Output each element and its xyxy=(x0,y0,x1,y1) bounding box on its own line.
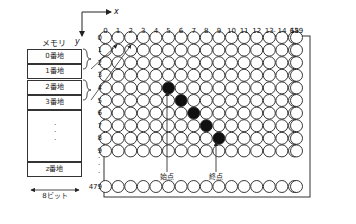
pixel-off xyxy=(263,44,275,56)
grid-row-label: 7 xyxy=(90,122,102,129)
pixel-off xyxy=(276,95,288,107)
pixel-off xyxy=(175,57,187,69)
pixel-off xyxy=(125,69,137,81)
pixel-off xyxy=(263,69,275,81)
pixel-off xyxy=(125,181,137,193)
pixel-off xyxy=(238,120,250,132)
pixel-off xyxy=(200,82,212,94)
pixel-off xyxy=(238,132,250,144)
pixel-off xyxy=(150,69,162,81)
memory-cell-0-label: 0番地 xyxy=(45,53,63,60)
pixel-off xyxy=(137,107,149,119)
pixel-off xyxy=(150,107,162,119)
pixel-off xyxy=(163,120,175,132)
grid-row-label-last: 479 xyxy=(81,183,102,190)
pixel-off xyxy=(125,57,137,69)
diagram-canvas: x y メモリ 0番地 1番地 2番地 3番地 z番地 ··· 8ビット 012… xyxy=(0,0,356,224)
pixel-off xyxy=(150,132,162,144)
grid-column-label: 8 xyxy=(204,28,208,35)
pixel-off xyxy=(200,107,212,119)
pixel-off xyxy=(112,145,124,157)
grid-column-label: 10 xyxy=(227,28,236,35)
pixel-off xyxy=(200,44,212,56)
grid-column-label-last: 639 xyxy=(290,28,303,35)
grid-row-label: 8 xyxy=(90,135,102,142)
pixel-off xyxy=(226,95,238,107)
pixel-off xyxy=(188,132,200,144)
grid-column-label: 11 xyxy=(240,28,249,35)
grid-row-label: 5 xyxy=(90,97,102,104)
grid-row-label: 6 xyxy=(90,110,102,117)
pixel-off xyxy=(226,181,238,193)
pixel-off xyxy=(112,181,124,193)
pixel-off xyxy=(226,120,238,132)
pixel-off xyxy=(226,69,238,81)
memory-cell-2[interactable]: 2番地 xyxy=(27,80,82,95)
pixel-off xyxy=(137,181,149,193)
pixel-off xyxy=(251,107,263,119)
pixel-off xyxy=(200,57,212,69)
pixel-off xyxy=(291,120,303,132)
memory-title: メモリ xyxy=(42,40,66,48)
pixel-off xyxy=(137,120,149,132)
pixel-off xyxy=(276,145,288,157)
pixel-off xyxy=(251,132,263,144)
memory-vertical-ellipsis: ··· xyxy=(54,122,56,144)
pixel-off xyxy=(150,57,162,69)
pixel-off xyxy=(163,69,175,81)
pixel-off xyxy=(251,82,263,94)
y-axis-label: y xyxy=(75,38,80,46)
grid-column-label: 14 xyxy=(277,28,286,35)
pixel-off xyxy=(291,57,303,69)
pixel-on xyxy=(175,95,187,107)
memory-cell-3[interactable]: 3番地 xyxy=(27,95,82,110)
pixel-off xyxy=(112,44,124,56)
pixel-off xyxy=(163,181,175,193)
pixel-off xyxy=(112,107,124,119)
pixel-off xyxy=(213,107,225,119)
memory-cell-z[interactable]: z番地 xyxy=(27,162,82,177)
pixel-off xyxy=(150,95,162,107)
pixel-off xyxy=(150,44,162,56)
pixel-off xyxy=(200,69,212,81)
pixel-off xyxy=(112,95,124,107)
pixel-off xyxy=(137,95,149,107)
pixel-off xyxy=(163,132,175,144)
memory-cell-1[interactable]: 1番地 xyxy=(27,64,82,79)
pixel-off xyxy=(276,69,288,81)
grid-column-ellipsis: ··· xyxy=(267,29,277,36)
pixel-off xyxy=(188,82,200,94)
pixel-off xyxy=(150,145,162,157)
grid-row-label: 3 xyxy=(90,72,102,79)
pixel-off xyxy=(112,82,124,94)
memory-cell-2-label: 2番地 xyxy=(45,84,63,91)
pixel-off xyxy=(188,145,200,157)
x-axis-label: x xyxy=(114,8,119,16)
pixel-off xyxy=(263,82,275,94)
grid-row-label: 4 xyxy=(90,84,102,91)
pixel-off xyxy=(213,57,225,69)
pixel-off xyxy=(150,181,162,193)
grid-column-label: 0 xyxy=(103,28,107,35)
pixel-off xyxy=(150,82,162,94)
pixel-off xyxy=(276,82,288,94)
pixel-off xyxy=(226,132,238,144)
pixel-off xyxy=(112,132,124,144)
grid-column-label: 7 xyxy=(191,28,195,35)
memory-cell-0[interactable]: 0番地 xyxy=(27,49,82,64)
pixel-off xyxy=(226,145,238,157)
pixel-off xyxy=(251,44,263,56)
pixel-off xyxy=(238,69,250,81)
pixel-off xyxy=(276,181,288,193)
grid-column-label: 5 xyxy=(166,28,170,35)
pixel-off xyxy=(112,120,124,132)
pixel-off xyxy=(125,145,137,157)
pixel-off xyxy=(175,69,187,81)
pixel-off xyxy=(213,145,225,157)
pixel-off xyxy=(251,120,263,132)
pixel-off xyxy=(291,181,303,193)
grid-row-label: 1 xyxy=(90,47,102,54)
pixel-off xyxy=(251,181,263,193)
pixel-off xyxy=(251,145,263,157)
pixel-off xyxy=(137,132,149,144)
